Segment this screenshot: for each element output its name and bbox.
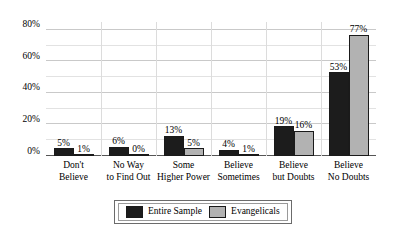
bar: 5%: [184, 148, 204, 156]
bar-value-label: 16%: [295, 121, 312, 131]
y-axis-tick-label: 80%: [23, 21, 40, 31]
x-axis-category-label: Don'tBelieve: [46, 160, 101, 183]
x-axis-label-line: Some: [156, 160, 211, 172]
legend-label: Evangelicals: [231, 207, 280, 217]
bar-value-label: 53%: [330, 63, 347, 73]
x-axis: Don'tBelieveNo Wayto Find OutSomeHigher …: [46, 160, 376, 194]
x-axis-category-label: Believebut Doubts: [266, 160, 321, 183]
y-axis-tick-label: 40%: [23, 84, 40, 94]
legend-swatch: [126, 206, 143, 218]
bar: 77%: [349, 35, 369, 156]
x-axis-label-line: Believe: [321, 160, 376, 172]
bar: 53%: [329, 72, 349, 156]
legend-label: Entire Sample: [148, 207, 202, 217]
legend-item: Evangelicals: [209, 206, 280, 218]
x-axis-category-label: No Wayto Find Out: [101, 160, 156, 183]
x-axis-label-line: to Find Out: [101, 172, 156, 184]
bar-value-label: 6%: [112, 137, 125, 147]
bar-group: 13%5%: [156, 22, 211, 156]
x-axis-label-line: but Doubts: [266, 172, 321, 184]
bar-group: 19%16%: [266, 22, 321, 156]
x-axis-label-line: Believe: [46, 172, 101, 184]
y-axis-tick-label: 0%: [27, 147, 40, 157]
bar: 1%: [239, 154, 259, 156]
bar: 6%: [109, 147, 129, 156]
bar-value-label: 5%: [57, 139, 70, 149]
x-axis-category-label: BelieveNo Doubts: [321, 160, 376, 183]
bar-value-label: 19%: [275, 117, 292, 127]
bar: 19%: [274, 126, 294, 156]
bar-value-label: 13%: [165, 126, 182, 136]
bar: 4%: [219, 150, 239, 156]
x-axis-label-line: Believe: [266, 160, 321, 172]
y-axis: 0%20%40%60%80%: [0, 22, 42, 156]
x-axis-label-line: Believe: [211, 160, 266, 172]
y-axis-tick-label: 60%: [23, 52, 40, 62]
bar-chart: 0%20%40%60%80% 5%1%6%0%13%5%4%1%19%16%53…: [0, 0, 402, 238]
bar-group: 5%1%: [46, 22, 101, 156]
bar-value-label: 77%: [350, 25, 367, 35]
bar-value-label: 4%: [222, 140, 235, 150]
legend-swatch: [209, 206, 226, 218]
x-axis-label-line: No Way: [101, 160, 156, 172]
legend-inner: Entire SampleEvangelicals: [118, 203, 288, 221]
legend: Entire SampleEvangelicals: [114, 200, 292, 224]
bar-value-label: 1%: [242, 145, 255, 155]
bar: 16%: [294, 131, 314, 156]
x-axis-label-line: No Doubts: [321, 172, 376, 184]
bar-group: 6%0%: [101, 22, 156, 156]
bar: 13%: [164, 136, 184, 156]
bar-value-label: 5%: [187, 139, 200, 149]
bar-value-label: 0%: [132, 145, 145, 155]
plot-area: 5%1%6%0%13%5%4%1%19%16%53%77%: [46, 22, 376, 156]
legend-item: Entire Sample: [126, 206, 202, 218]
bar: 0%: [129, 154, 149, 156]
bar-group: 4%1%: [211, 22, 266, 156]
x-axis-category-label: BelieveSometimes: [211, 160, 266, 183]
bar-group: 53%77%: [321, 22, 376, 156]
x-axis-label-line: Sometimes: [211, 172, 266, 184]
bar: 1%: [74, 154, 94, 156]
bar: 5%: [54, 148, 74, 156]
bar-value-label: 1%: [77, 145, 90, 155]
x-axis-category-label: SomeHigher Power: [156, 160, 211, 183]
x-axis-label-line: Don't: [46, 160, 101, 172]
x-axis-label-line: Higher Power: [156, 172, 211, 184]
y-axis-tick-label: 20%: [23, 115, 40, 125]
